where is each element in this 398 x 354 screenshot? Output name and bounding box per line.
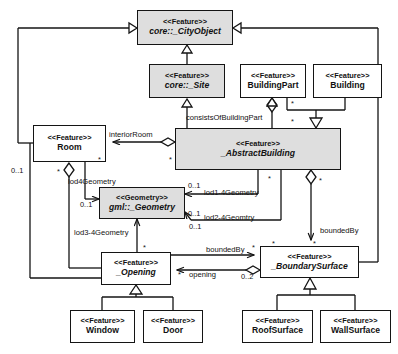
class-name: Building (330, 81, 364, 91)
multiplicity-m_geo_01a: 0..1 (80, 200, 92, 209)
class-box-site[interactable]: <<Feature>>core::_Site (149, 64, 225, 98)
multiplicity-m_geo_01b: 0..1 (189, 222, 201, 231)
association-label-boundedby1: boundedBy (320, 226, 358, 235)
class-name: core::_CityObject (149, 27, 221, 37)
class-stereotype: <<Feature>> (151, 317, 195, 325)
multiplicity-m_lod1_01: 0..1 (188, 181, 200, 190)
association-label-lod1_4: lod1-4Geometry (204, 188, 258, 197)
multiplicity-m_open_02: 0..2 (241, 272, 253, 281)
multiplicity-m_open_star: * (143, 243, 146, 252)
multiplicity-m_room_01: 0..1 (11, 166, 23, 175)
class-box-abstractbuilding[interactable]: <<Feature>>_AbstractBuilding (175, 128, 341, 170)
class-box-window[interactable]: <<Feature>>Window (70, 310, 135, 343)
multiplicity-m_ab_bot_star: * (268, 174, 271, 183)
class-name: gml::_Geometry (109, 203, 175, 213)
multiplicity-m_bb2_star: * (252, 243, 255, 252)
class-name: Door (163, 326, 183, 336)
multiplicity-m_room_star: * (98, 155, 101, 164)
class-name: _BoundarySurface (271, 262, 347, 272)
association-label-lod3_4: lod3-4Geometry (74, 228, 128, 237)
class-box-roofsurface[interactable]: <<Feature>>RoofSurface (242, 310, 313, 343)
multiplicity-m_bp_star: * (291, 99, 294, 108)
class-box-buildingpart[interactable]: <<Feature>>BuildingPart (240, 64, 306, 98)
multiplicity-m_bs_r_star: * (313, 239, 316, 248)
multiplicity-m_open_in: * (178, 270, 181, 279)
class-stereotype: <<Feature>> (326, 72, 370, 80)
class-name: _Opening (116, 268, 156, 278)
association-label-lod4: lod4Geometry (68, 177, 116, 186)
class-stereotype: <<Feature>> (251, 72, 295, 80)
multiplicity-m_bs_top_star: * (272, 239, 275, 248)
class-stereotype: <<Feature>> (163, 18, 207, 26)
class-name: Window (86, 326, 119, 336)
class-name: RoofSurface (252, 326, 303, 336)
association-label-lod2_4: lod2-4Geomtry (204, 213, 254, 222)
class-stereotype: <<Feature>> (288, 253, 332, 261)
multiplicity-m_lod2_01: 0..1 (188, 209, 200, 218)
class-name: WallSurface (331, 326, 380, 336)
class-name: Room (57, 143, 81, 153)
association-label-consists: consistsOfBuildingPart (186, 113, 262, 122)
class-stereotype: <<Feature>> (114, 259, 158, 267)
class-stereotype: <<Feature>> (256, 317, 300, 325)
class-box-geometry[interactable]: <<Geometry>>gml::_Geometry (99, 187, 185, 219)
class-box-wallsurface[interactable]: <<Feature>>WallSurface (320, 310, 391, 343)
class-stereotype: <<Feature>> (165, 72, 209, 80)
class-name: _AbstractBuilding (221, 149, 295, 159)
multiplicity-m_ab_bot_star2: * (319, 176, 322, 185)
class-box-boundarysurface[interactable]: <<Feature>>_BoundarySurface (260, 246, 359, 278)
class-stereotype: <<Feature>> (81, 317, 125, 325)
class-stereotype: <<Feature>> (236, 140, 280, 148)
multiplicity-m_ab_left: * (169, 155, 172, 164)
class-box-cityobject[interactable]: <<Feature>>core::_CityObject (137, 10, 233, 45)
association-label-boundedby2: boundedBy (206, 245, 244, 254)
class-box-opening[interactable]: <<Feature>>_Opening (101, 252, 171, 285)
class-name: core::_Site (165, 81, 209, 91)
multiplicity-m_consists: * (291, 117, 294, 126)
class-stereotype: <<Geometry>> (116, 194, 168, 202)
association-label-interior: interiorRoom (109, 130, 152, 139)
diagram-edges (0, 0, 398, 354)
class-name: BuildingPart (247, 81, 298, 91)
class-box-building[interactable]: <<Feature>>Building (313, 64, 382, 98)
class-box-door[interactable]: <<Feature>>Door (143, 310, 203, 343)
class-box-room[interactable]: <<Feature>>Room (33, 125, 106, 162)
association-label-opening_l: opening (189, 270, 216, 279)
class-stereotype: <<Feature>> (334, 317, 378, 325)
uml-diagram-canvas: <<Feature>>core::_CityObject<<Feature>>c… (0, 0, 398, 354)
class-stereotype: <<Feature>> (48, 134, 92, 142)
multiplicity-m_room_star2: * (57, 167, 60, 176)
